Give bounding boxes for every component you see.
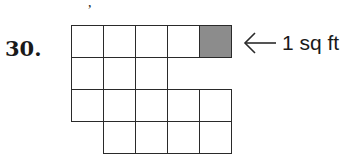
left-arrow-icon (243, 30, 277, 56)
grid-square (71, 25, 104, 58)
grid-square (103, 121, 136, 154)
unit-label: 1 sq ft (282, 31, 339, 55)
grid-square (103, 25, 136, 58)
grid-square (167, 25, 200, 58)
unit-legend: 1 sq ft (243, 30, 339, 56)
grid-square (199, 89, 232, 122)
grid-square (135, 57, 168, 90)
grid-square (103, 57, 136, 90)
grid-square (135, 25, 168, 58)
shaded-unit-square (199, 25, 232, 58)
grid-square (167, 89, 200, 122)
grid-square (135, 89, 168, 122)
grid-square (71, 89, 104, 122)
square-grid-figure (0, 0, 350, 154)
grid-square (71, 57, 104, 90)
grid-square (199, 121, 232, 154)
grid-square (135, 121, 168, 154)
grid-square (167, 121, 200, 154)
grid-square (103, 89, 136, 122)
